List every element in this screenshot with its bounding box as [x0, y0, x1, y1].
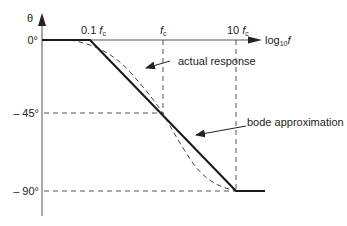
y-axis-symbol: θ: [27, 12, 33, 24]
y-tick-minus45: – 45°: [13, 107, 39, 119]
x-tick-0.1fc: 0.1 fc: [81, 24, 106, 37]
actual-response-label: actual response: [178, 55, 256, 67]
x-tick-10fc: 10 fc: [227, 24, 249, 37]
bode-approximation-label: bode approximation: [247, 116, 344, 128]
y-tick-minus90: – 90°: [13, 185, 39, 197]
x-axis-arrow-icon: [248, 37, 262, 44]
y-tick-0: 0°: [27, 34, 38, 46]
actual-response-leader: [146, 61, 170, 68]
bode-approx-leader: [196, 126, 246, 135]
y-axis-arrow-icon: [38, 13, 46, 26]
bode-phase-diagram: θ 0° – 45° – 90° 0.1 fc fc 10 fc log10f …: [0, 0, 347, 226]
x-tick-fc: fc: [160, 24, 167, 37]
x-axis-label: log10f: [265, 34, 291, 47]
